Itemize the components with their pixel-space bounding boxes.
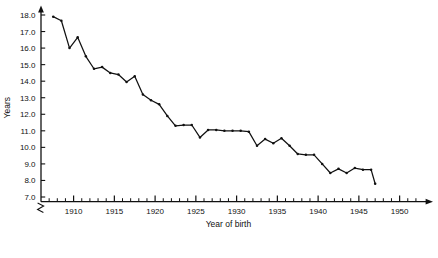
y-axis-title: Years [2, 97, 12, 118]
data-point [313, 154, 316, 157]
data-point [68, 47, 71, 50]
data-point [354, 167, 357, 170]
y-tick-label: 10.0 [20, 143, 36, 152]
line-chart: 7.08.09.010.011.012.013.014.015.016.017.… [0, 0, 438, 258]
data-point [133, 75, 136, 78]
data-point [272, 142, 275, 145]
data-point [76, 36, 79, 39]
data-point [256, 144, 259, 147]
data-point [191, 124, 194, 127]
chart-figure: 7.08.09.010.011.012.013.014.015.016.017.… [0, 0, 438, 258]
data-series-line [53, 17, 375, 184]
y-tick-label: 15.0 [20, 61, 36, 70]
y-tick-label: 14.0 [20, 77, 36, 86]
y-tick-label: 11.0 [21, 127, 37, 136]
y-tick-label: 16.0 [20, 44, 36, 53]
data-point [207, 129, 210, 132]
x-tick-label: 1950 [391, 207, 409, 216]
x-tick-label: 1915 [105, 207, 123, 216]
y-tick-label: 17.0 [20, 28, 36, 37]
y-tick-label: 7.0 [24, 193, 36, 202]
x-axis-arrow-icon [426, 199, 433, 205]
x-tick-label: 1945 [350, 207, 368, 216]
y-tick-label: 9.0 [24, 160, 36, 169]
y-axis-break-icon [38, 203, 44, 212]
data-point [370, 168, 373, 171]
data-point [199, 136, 202, 139]
data-point [117, 73, 120, 76]
data-point [166, 115, 169, 118]
data-point [182, 124, 185, 127]
data-point [150, 99, 153, 102]
data-point [264, 138, 267, 141]
data-point [288, 144, 291, 147]
data-point [374, 183, 377, 186]
data-point [85, 55, 88, 58]
data-point [231, 130, 234, 133]
data-point [158, 103, 161, 106]
data-point [239, 130, 242, 133]
x-tick-label: 1940 [309, 207, 327, 216]
data-point [52, 15, 55, 18]
data-point [125, 81, 128, 84]
y-tick-label: 18.0 [20, 11, 36, 20]
data-point [215, 129, 218, 132]
x-axis-title: Year of birth [206, 219, 252, 229]
x-tick-label: 1930 [228, 207, 246, 216]
data-point [345, 172, 348, 175]
y-axis-arrow-icon [38, 6, 44, 13]
data-point [174, 125, 177, 128]
y-tick-label: 8.0 [24, 176, 36, 185]
x-tick-label: 1935 [268, 207, 286, 216]
data-point [109, 72, 112, 75]
y-tick-label: 13.0 [20, 94, 36, 103]
chart-render-group: 7.08.09.010.011.012.013.014.015.016.017.… [2, 6, 434, 230]
data-point [296, 153, 299, 156]
data-point [142, 93, 145, 96]
data-point [329, 172, 332, 175]
data-point [305, 154, 308, 157]
data-point [337, 168, 340, 171]
data-point [280, 137, 283, 140]
data-point [93, 68, 96, 71]
data-point [60, 20, 63, 23]
y-tick-label: 12.0 [20, 110, 36, 119]
x-tick-label: 1910 [65, 207, 83, 216]
data-point [321, 163, 324, 166]
data-point [362, 168, 365, 171]
x-tick-label: 1925 [187, 207, 205, 216]
x-tick-label: 1920 [146, 207, 164, 216]
data-point [248, 130, 251, 133]
data-point [223, 130, 226, 133]
data-point [101, 66, 104, 69]
